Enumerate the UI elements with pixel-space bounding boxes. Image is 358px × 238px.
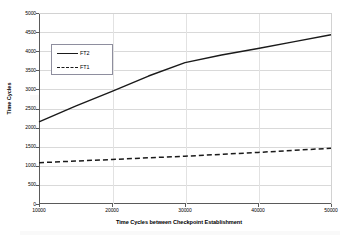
chart-figure: 0500100015002000250030003500400045005000… (0, 0, 358, 238)
y-axis-title: Time Cycles (6, 69, 13, 129)
series-layer (0, 0, 358, 238)
legend-label-ft2: FT2 (80, 49, 89, 57)
x-axis-title: Time Cycles between Checkpoint Establish… (0, 219, 358, 226)
series-line-ft1 (39, 148, 331, 163)
legend-entry-ft1: FT1 (52, 62, 114, 73)
legend-swatch-dashed-icon (57, 67, 78, 68)
legend-entry-ft2: FT2 (52, 48, 114, 59)
legend: FT2 FT1 (51, 44, 113, 75)
legend-swatch-solid-icon (57, 53, 78, 54)
legend-label-ft1: FT1 (80, 63, 89, 71)
